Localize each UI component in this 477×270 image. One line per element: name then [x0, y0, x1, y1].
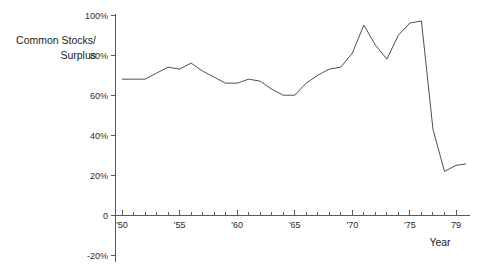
x-tick-label: '75: [404, 220, 416, 230]
y-tick-label: 80%: [90, 51, 108, 61]
x-tick-label: '65: [289, 220, 301, 230]
data-line-common-stocks-surplus: [122, 21, 456, 171]
x-tick-label: '55: [174, 220, 186, 230]
y-tick-label: 60%: [90, 91, 108, 101]
line-chart: Common Stocks/ Surplus 100%80%60%40%20%0…: [0, 0, 477, 270]
x-tick-label: '50: [116, 220, 128, 230]
y-tick-label: 0: [103, 211, 108, 221]
y-tick-label: 100%: [85, 11, 108, 21]
x-axis-title: Year: [429, 236, 451, 248]
y-tick-label: 40%: [90, 131, 108, 141]
x-tick-label: '70: [346, 220, 358, 230]
y-axis-title-line1: Common Stocks/: [16, 34, 96, 46]
series-group: [122, 21, 466, 171]
data-line-end-stub: [456, 164, 466, 166]
chart-container: Common Stocks/ Surplus 100%80%60%40%20%0…: [0, 0, 477, 270]
x-tick-label: '60: [231, 220, 243, 230]
x-axis-minor-ticks: [122, 212, 456, 216]
y-tick-label: 20%: [90, 171, 108, 181]
y-tick-label: -20%: [87, 251, 108, 261]
x-tick-label: 79: [451, 220, 461, 230]
